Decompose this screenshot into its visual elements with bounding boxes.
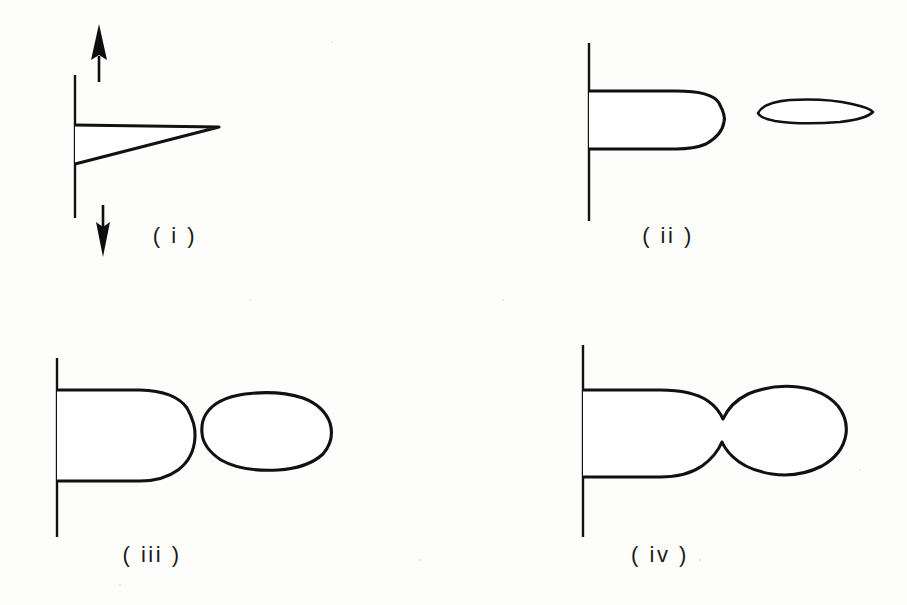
paper-background <box>0 0 907 605</box>
figure-root: ( i ) ( ii ) ( iii ) <box>0 0 907 605</box>
panel-iii-label: ( iii ) <box>122 542 181 567</box>
panel-ii-label: ( ii ) <box>642 223 694 248</box>
figure-canvas: ( i ) ( ii ) ( iii ) <box>0 0 907 605</box>
panel-iv-label: ( iv ) <box>631 542 689 567</box>
panel-i-label: ( i ) <box>153 223 197 248</box>
